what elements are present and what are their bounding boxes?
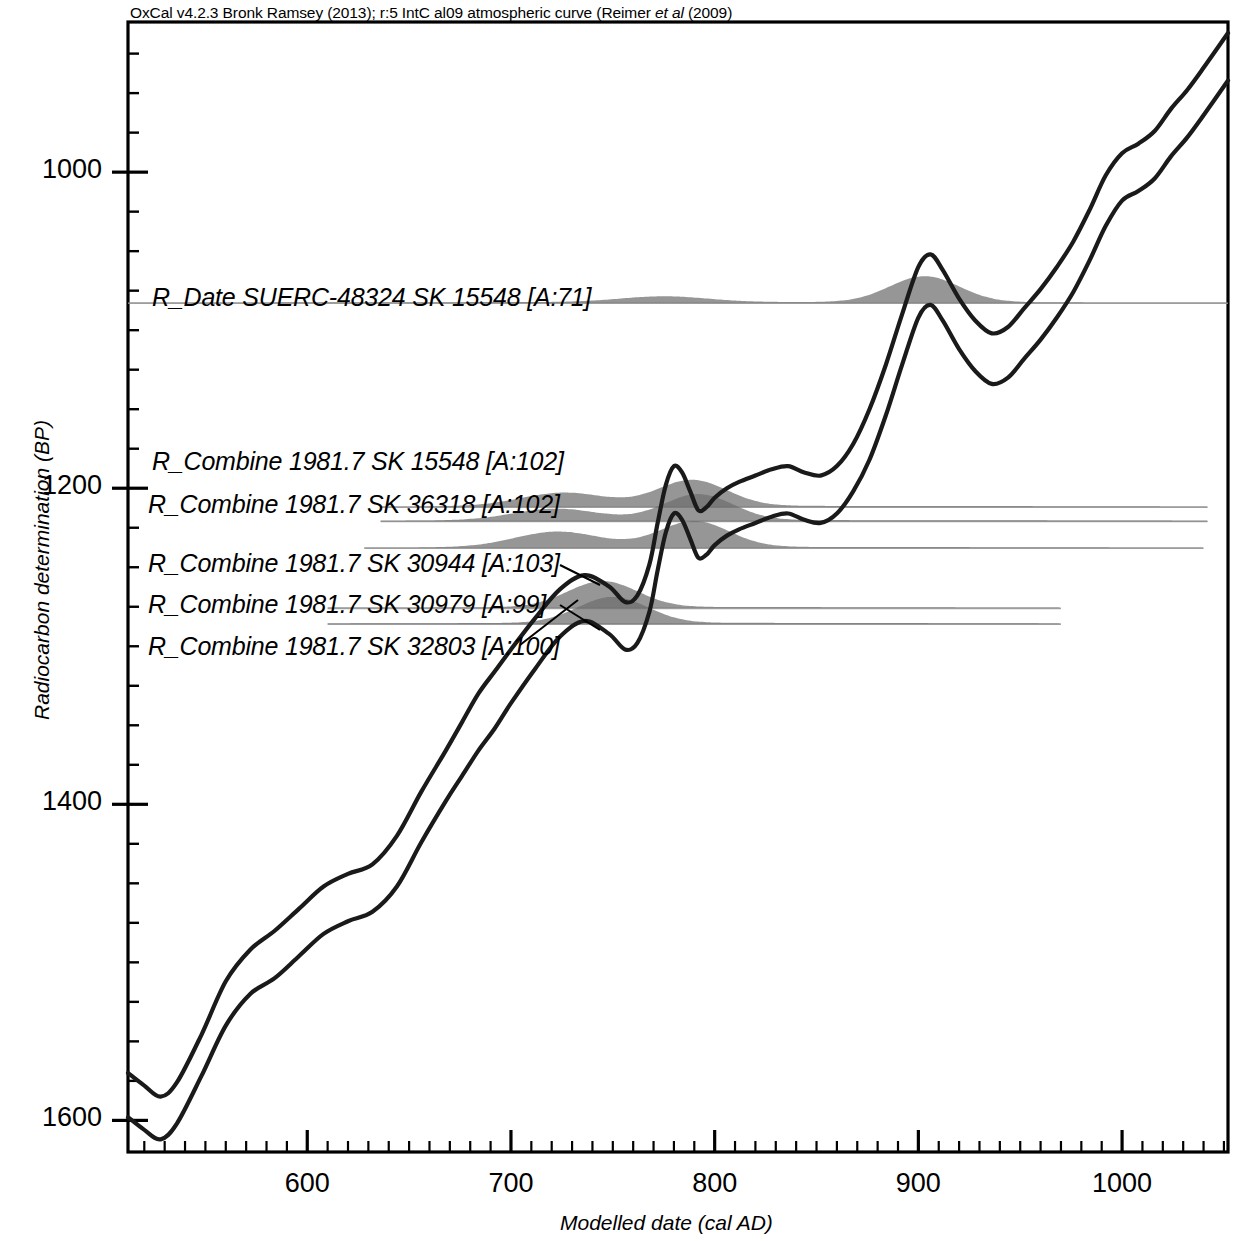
x-tick-label: 800	[655, 1168, 775, 1199]
x-tick-label: 700	[451, 1168, 571, 1199]
x-tick-label: 900	[858, 1168, 978, 1199]
x-tick-label: 600	[247, 1168, 367, 1199]
calibration-chart	[0, 0, 1240, 1241]
y-axis-title: Radiocarbon determination (BP)	[30, 420, 54, 720]
x-axis-title: Modelled date (cal AD)	[560, 1211, 773, 1235]
y-tick-label: 1000	[0, 154, 102, 185]
sample-label: R_Combine 1981.7 SK 36318 [A:102]	[148, 490, 560, 519]
sample-label: R_Combine 1981.7 SK 30979 [A:99]	[148, 590, 546, 619]
sample-label: R_Combine 1981.7 SK 15548 [A:102]	[152, 447, 564, 476]
plot-frame	[128, 22, 1228, 1152]
x-tick-label: 1000	[1062, 1168, 1182, 1199]
y-tick-label: 1600	[0, 1102, 102, 1133]
y-tick-label: 1400	[0, 786, 102, 817]
oxcal-plot-page: OxCal v4.2.3 Bronk Ramsey (2013); r:5 In…	[0, 0, 1240, 1241]
sample-label: R_Date SUERC-48324 SK 15548 [A:71]	[152, 283, 591, 312]
calibration-curve	[128, 33, 1228, 1139]
sample-label: R_Combine 1981.7 SK 32803 [A:100]	[148, 632, 560, 661]
sample-label: R_Combine 1981.7 SK 30944 [A:103]	[148, 549, 560, 578]
